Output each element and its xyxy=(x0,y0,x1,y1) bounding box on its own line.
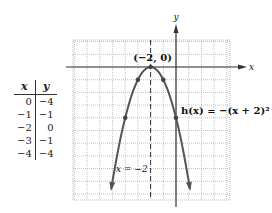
vertex-label: (−2, 0) xyxy=(133,52,172,64)
function-label: h(x) = −(x + 2)² xyxy=(181,105,270,116)
data-point xyxy=(161,77,166,82)
parabola-graph: y x (−2, 0) h(x) = −(x + 2)² x = −2 xyxy=(0,0,272,213)
grid xyxy=(73,40,230,200)
data-point xyxy=(123,116,128,121)
data-point xyxy=(136,77,141,82)
data-point xyxy=(174,116,179,121)
data-point xyxy=(148,65,153,70)
x-axis-label: x xyxy=(249,62,254,72)
symmetry-label: x = −2 xyxy=(116,164,148,174)
y-axis-label: y xyxy=(172,12,179,22)
